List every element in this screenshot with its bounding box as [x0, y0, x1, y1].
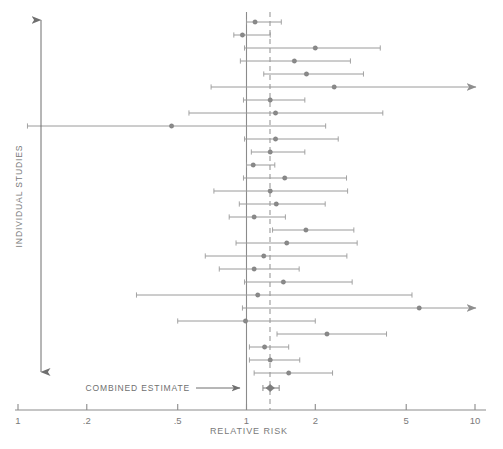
point-estimate-marker: [332, 85, 336, 89]
x-axis-ticks: 1.2.512510: [15, 404, 480, 426]
point-estimate-marker: [252, 267, 256, 271]
point-estimate-marker: [304, 72, 308, 76]
study-row: [244, 136, 338, 141]
point-estimate-marker: [268, 98, 272, 102]
study-row: [189, 110, 383, 115]
point-estimate-marker: [283, 176, 287, 180]
study-rows-group: [27, 19, 476, 375]
point-estimate-marker: [252, 215, 256, 219]
point-estimate-marker: [273, 111, 277, 115]
point-estimate-marker: [281, 280, 285, 284]
study-row: [264, 71, 364, 76]
study-row: [205, 253, 347, 258]
study-row: [249, 344, 288, 349]
study-row: [219, 266, 299, 271]
individual-studies-label: INDIVIDUAL STUDIES: [14, 145, 24, 248]
study-row: [178, 318, 316, 323]
study-row: [136, 292, 412, 297]
study-row: [242, 305, 476, 310]
point-estimate-marker: [285, 241, 289, 245]
x-tick-label: 1: [244, 415, 249, 426]
study-row: [234, 32, 270, 37]
point-estimate-marker: [256, 293, 260, 297]
x-axis-title: RELATIVE RISK: [210, 426, 288, 436]
individual-studies-axis: INDIVIDUAL STUDIES: [14, 20, 41, 372]
x-tick-label: 1: [15, 415, 20, 426]
point-estimate-marker: [287, 371, 291, 375]
point-estimate-marker: [262, 254, 266, 258]
point-estimate-marker: [262, 345, 266, 349]
study-row: [27, 123, 325, 128]
study-row: [244, 279, 352, 284]
study-row: [277, 331, 387, 336]
study-row: [251, 149, 304, 154]
point-estimate-marker: [169, 124, 173, 128]
study-row: [236, 240, 357, 245]
study-row: [214, 188, 348, 193]
study-row: [229, 214, 285, 219]
point-estimate-marker: [243, 319, 247, 323]
combined-estimate-label: COMBINED ESTIMATE: [86, 383, 191, 393]
study-row: [249, 357, 299, 362]
combined-estimate-annotation: COMBINED ESTIMATE: [86, 383, 241, 393]
study-row: [240, 58, 350, 63]
study-row: [247, 162, 275, 167]
study-row: [239, 201, 325, 206]
forest-plot-figure: INDIVIDUAL STUDIES COMBINED ESTIMATE 1.2…: [0, 0, 503, 449]
x-tick-label: 2: [313, 415, 318, 426]
point-estimate-marker: [292, 59, 296, 63]
study-row: [273, 227, 354, 232]
x-tick-label: 5: [404, 415, 409, 426]
point-estimate-marker: [268, 358, 272, 362]
point-estimate-marker: [240, 33, 244, 37]
point-estimate-marker: [325, 332, 329, 336]
study-row: [247, 19, 282, 24]
study-row: [243, 175, 346, 180]
point-estimate-marker: [313, 46, 317, 50]
point-estimate-marker: [268, 150, 272, 154]
point-estimate-marker: [417, 306, 421, 310]
point-estimate-marker: [251, 163, 255, 167]
combined-estimate-marker: [266, 384, 274, 391]
point-estimate-marker: [253, 20, 257, 24]
x-tick-label: .5: [174, 415, 182, 426]
forest-plot-canvas: INDIVIDUAL STUDIES COMBINED ESTIMATE 1.2…: [0, 0, 503, 449]
study-row: [254, 370, 332, 375]
reference-lines: [247, 12, 271, 410]
study-row: [211, 84, 476, 89]
combined-estimate-group: [263, 384, 279, 391]
point-estimate-marker: [304, 228, 308, 232]
point-estimate-marker: [274, 202, 278, 206]
study-row: [244, 45, 380, 50]
point-estimate-marker: [273, 137, 277, 141]
x-tick-label: .2: [83, 415, 91, 426]
study-row: [243, 97, 304, 102]
x-tick-label: 10: [470, 415, 481, 426]
point-estimate-marker: [268, 189, 272, 193]
